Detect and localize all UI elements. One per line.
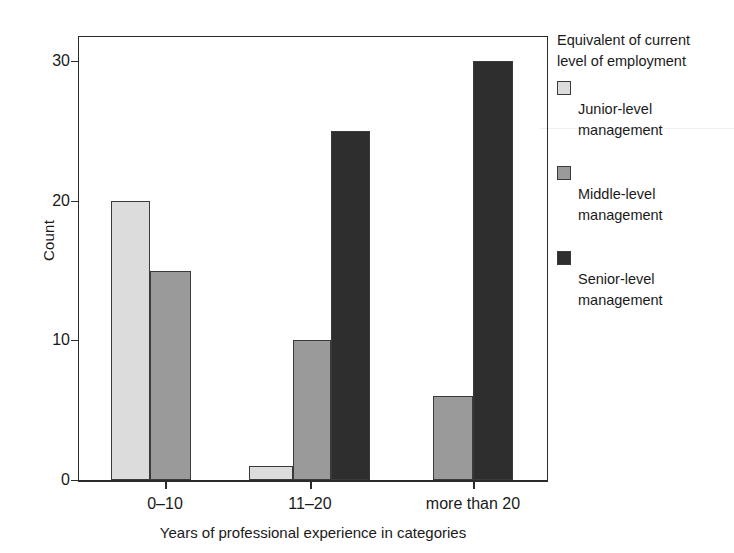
x-tick-label-2: 11–20 — [288, 495, 331, 513]
legend-title-line-1: Equivalent of current — [557, 32, 690, 48]
legend-label-middle-line-2: management — [578, 205, 663, 226]
legend-title-line-2: level of employment — [557, 53, 686, 69]
legend-label-middle-line-1: Middle-level — [578, 186, 655, 202]
x-tick-mark-3 — [473, 481, 475, 489]
legend-swatch-middle-icon — [557, 166, 571, 180]
bar-senior-2 — [331, 131, 370, 480]
bar-chart-figure: Count 3020100 0–1011–20more than 20 Year… — [0, 0, 734, 553]
legend-label-junior: Junior-level management — [578, 78, 663, 162]
bar-senior-3 — [473, 61, 513, 480]
bar-middle-2 — [293, 340, 331, 480]
legend-title: Equivalent of current level of employmen… — [557, 30, 733, 72]
legend-label-senior-line-2: management — [578, 290, 663, 311]
x-tick-label-1: 0–10 — [147, 495, 183, 513]
bar-junior-2 — [249, 466, 293, 480]
x-tick-mark-1 — [165, 481, 167, 489]
legend: Equivalent of current level of employmen… — [557, 30, 733, 333]
legend-entry-senior[interactable]: Senior-level management — [557, 248, 733, 332]
legend-swatch-junior-icon — [557, 81, 571, 95]
bar-middle-1 — [150, 271, 191, 480]
x-tick-label-3: more than 20 — [426, 495, 520, 513]
legend-entry-junior[interactable]: Junior-level management — [557, 78, 733, 162]
bar-junior-1 — [111, 201, 150, 480]
legend-label-junior-line-1: Junior-level — [578, 101, 652, 117]
legend-label-middle: Middle-level management — [578, 163, 663, 247]
x-axis-title: Years of professional experience in cate… — [78, 524, 548, 541]
legend-label-junior-line-2: management — [578, 120, 663, 141]
legend-label-senior-line-1: Senior-level — [578, 271, 655, 287]
x-tick-mark-2 — [310, 481, 312, 489]
legend-label-senior: Senior-level management — [578, 248, 663, 332]
legend-entry-middle[interactable]: Middle-level management — [557, 163, 733, 247]
legend-swatch-senior-icon — [557, 251, 571, 265]
bar-middle-3 — [433, 396, 473, 480]
